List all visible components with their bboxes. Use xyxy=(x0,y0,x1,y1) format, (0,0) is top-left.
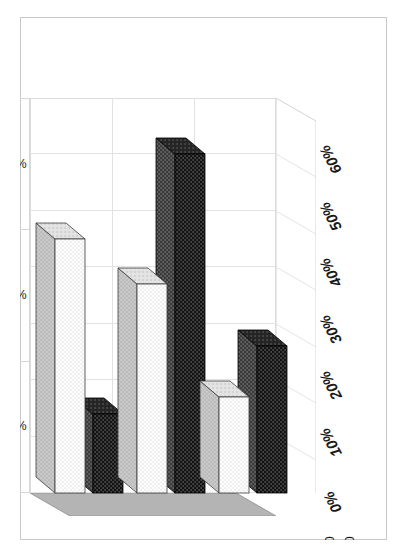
rotated-chart-wrapper: 0% 10% 20% 30% 40% 50% 60% WITH BOARDERS… xyxy=(20,17,387,540)
chart-legend: 1900 1910 xyxy=(320,460,376,540)
table-value-1910-2: 17% xyxy=(20,157,26,171)
table-value-1910-0: 45% xyxy=(20,420,26,434)
bar-men-only-1910 xyxy=(200,372,254,493)
axis-tick-20: 20% xyxy=(316,369,345,403)
legend-label-1900: 1900 xyxy=(323,536,337,540)
chart-data-table: WITH BOARDERS WITHOUT BORDERS MEN ONLY 1… xyxy=(20,98,30,493)
axis-tick-40: 40% xyxy=(316,256,345,290)
axis-tick-10: 10% xyxy=(316,426,345,460)
bar-with-boarders-1910 xyxy=(36,214,90,493)
chart-screenshot: 0% 10% 20% 30% 40% 50% 60% WITH BOARDERS… xyxy=(0,0,406,557)
table-cell-1910-without-borders: 37% xyxy=(20,230,30,361)
legend-label-1910: 1910 xyxy=(343,536,357,540)
table-cell-1910-men-only: 17% xyxy=(20,99,30,230)
legend-entry-1900: 1900 xyxy=(320,460,340,540)
chart-canvas: 0% 10% 20% 30% 40% 50% 60% WITH BOARDERS… xyxy=(20,17,387,540)
axis-tick-30: 30% xyxy=(316,313,345,347)
table-cell-1910-with-boarders: 45% xyxy=(20,361,30,492)
axis-tick-60: 60% xyxy=(316,143,345,177)
axis-tick-50: 50% xyxy=(316,200,345,234)
axis-wall-3d xyxy=(30,493,276,516)
legend-entry-1910: 1910 xyxy=(340,460,360,540)
table-value-1910-1: 37% xyxy=(20,288,26,302)
bar-without-borders-1910 xyxy=(118,259,172,493)
table-row-1910: 45% 37% 17% xyxy=(20,99,30,493)
bars-layer xyxy=(30,98,276,493)
